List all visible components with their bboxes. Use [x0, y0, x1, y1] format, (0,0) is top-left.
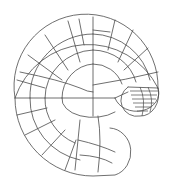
inner-core-lower — [62, 98, 115, 117]
spoke — [108, 20, 115, 50]
outer-shell-upper — [15, 45, 158, 98]
spiral-diagram — [0, 0, 177, 180]
ring-3-upper-right — [93, 50, 136, 82]
spoke — [75, 120, 80, 170]
spoke — [124, 48, 148, 70]
spoke — [79, 19, 84, 45]
spoke — [65, 140, 76, 170]
spiral-seam-left — [20, 72, 93, 92]
spiral-seam-right — [93, 72, 158, 85]
ring-2-upper-right — [93, 34, 150, 80]
diagram-canvas — [0, 0, 177, 180]
spoke — [93, 30, 110, 32]
lower-lobe-seam-2 — [80, 155, 112, 163]
right-lobe-outline — [115, 88, 159, 111]
spoke — [42, 130, 65, 155]
lower-lobe-seam — [78, 140, 115, 152]
ring-3-lower — [45, 98, 75, 143]
hatched-chamber-outline — [121, 87, 159, 116]
spoke — [68, 21, 80, 62]
lower-lobe-spoke — [98, 116, 100, 172]
ring-4-upper-left — [62, 64, 93, 98]
